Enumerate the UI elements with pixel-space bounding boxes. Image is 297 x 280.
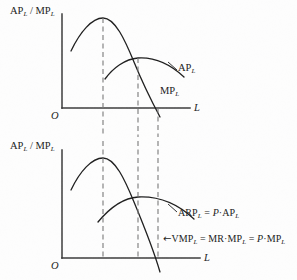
arp-equation-lhs: ARP bbox=[178, 207, 198, 218]
top-origin-label: O bbox=[51, 111, 59, 122]
bottom-y-axis-label-mp-sub: L bbox=[51, 145, 55, 153]
bottom-x-axis-label: L bbox=[204, 253, 210, 264]
vmp-equation-mp2: MP bbox=[267, 233, 282, 244]
top-mp-curve-label-text: MP bbox=[160, 85, 175, 96]
top-ap-curve-label: APL bbox=[178, 63, 195, 75]
vmp-equation-mr: MR bbox=[208, 233, 224, 244]
bottom-vmp-curve bbox=[71, 158, 160, 272]
top-y-axis-label-mp-sub: L bbox=[51, 10, 55, 18]
figure-container: APL / MPL O L APL MPL APL / MPL O L ARPL… bbox=[0, 0, 297, 280]
arp-equation-rhs-sub: L bbox=[235, 212, 239, 220]
top-x-axis-label: L bbox=[194, 103, 200, 114]
vmp-equation-equals-1: = bbox=[197, 233, 208, 244]
arp-equation: ARPL = P·APL bbox=[178, 208, 239, 220]
bottom-y-axis-label-mp: MP bbox=[36, 140, 51, 151]
top-y-axis-label-slash: / bbox=[27, 5, 35, 16]
bottom-y-axis-label-ap: AP bbox=[10, 140, 23, 151]
top-y-axis-label-mp: MP bbox=[36, 5, 51, 16]
vmp-equation-lhs: VMP bbox=[171, 233, 193, 244]
vmp-equation-mp2-sub: L bbox=[281, 238, 285, 246]
arp-equation-rhs: AP bbox=[222, 207, 235, 218]
vmp-equation-mp: MP bbox=[228, 233, 243, 244]
bottom-y-axis-label: APL / MPL bbox=[10, 141, 55, 153]
vmp-equation-equals-2: = bbox=[246, 233, 257, 244]
bottom-y-axis-label-slash: / bbox=[27, 140, 35, 151]
top-ap-curve bbox=[105, 58, 184, 79]
top-ap-curve-label-text: AP bbox=[178, 62, 191, 73]
top-mp-curve-label: MPL bbox=[160, 86, 179, 98]
arp-equation-equals: = bbox=[202, 207, 213, 218]
bottom-origin-label: O bbox=[51, 261, 59, 272]
top-ap-curve-label-sub: L bbox=[191, 67, 195, 75]
top-mp-curve-label-sub: L bbox=[175, 90, 179, 98]
vmp-equation: ←VMPL = MR·MPL = P·MPL bbox=[163, 234, 285, 246]
top-y-axis-label-ap: AP bbox=[10, 5, 23, 16]
top-y-axis-label: APL / MPL bbox=[10, 6, 55, 18]
